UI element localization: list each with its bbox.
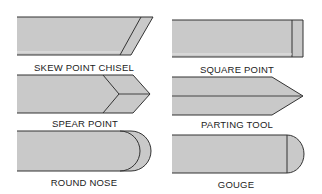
gouge-label: GOUGE (218, 180, 254, 190)
lathe-tool-shapes-figure (0, 0, 322, 194)
skew-point-chisel-shape (17, 17, 153, 55)
spear-point-shape (17, 75, 150, 113)
round-nose-shape (17, 131, 151, 171)
gouge-shape (172, 135, 304, 173)
parting-tool-shape (172, 77, 303, 115)
round-nose-label: ROUND NOSE (51, 178, 117, 188)
spear-point-label: SPEAR POINT (52, 119, 118, 129)
skew-point-chisel-label: SKEW POINT CHISEL (34, 63, 134, 73)
square-point-shape (172, 20, 303, 57)
parting-tool-label: PARTING TOOL (201, 120, 273, 130)
square-point-label: SQUARE POINT (200, 65, 274, 75)
